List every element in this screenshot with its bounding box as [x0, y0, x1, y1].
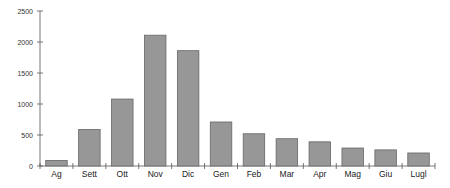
x-category-label: Mar — [280, 169, 295, 179]
y-tick-label: 500 — [21, 132, 33, 139]
x-category-label: Apr — [313, 169, 326, 179]
y-tick-label: 1000 — [17, 101, 33, 108]
x-category-label: Nov — [148, 169, 164, 179]
bar-gen — [210, 122, 232, 166]
bar-ag — [46, 160, 67, 166]
x-category-label: Dic — [182, 169, 195, 179]
y-tick-label: 0 — [29, 163, 33, 170]
bar-dic — [177, 51, 199, 166]
y-tick-label: 2000 — [17, 39, 33, 46]
x-category-label: Ott — [117, 169, 129, 179]
bar-apr — [309, 142, 331, 166]
x-category-label: Mag — [344, 169, 361, 179]
x-category-label: Lugl — [411, 169, 427, 179]
x-category-label: Feb — [247, 169, 262, 179]
y-tick-label: 2500 — [17, 8, 33, 15]
x-category-label: Gen — [213, 169, 229, 179]
x-category-label: Ag — [51, 169, 62, 179]
bar-nov — [144, 35, 166, 166]
y-tick-label: 1500 — [17, 70, 33, 77]
x-category-label: Giu — [379, 169, 393, 179]
bars — [46, 35, 430, 166]
bar-ott — [112, 99, 133, 166]
bar-lugl — [408, 153, 430, 166]
bar-sett — [79, 129, 101, 166]
bar-giu — [375, 150, 397, 166]
bar-chart: 05001000150020002500 AgSettOttNovDicGenF… — [0, 0, 450, 188]
x-category-label: Sett — [82, 169, 98, 179]
y-axis: 05001000150020002500 — [17, 8, 43, 170]
bar-mag — [342, 148, 364, 166]
bar-mar — [276, 139, 298, 166]
bar-feb — [243, 134, 264, 166]
